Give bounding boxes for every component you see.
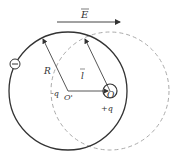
electric-field-arrow: E: [57, 9, 120, 22]
radius-arrow: [43, 39, 68, 91]
electron-icon: [10, 59, 20, 69]
radius-label: R: [43, 66, 51, 76]
field-label: E: [80, 9, 89, 20]
atom-polarization-diagram: E R l -q O' O +q: [0, 0, 177, 164]
negative-charge-label: -q: [51, 89, 59, 98]
center-label: O: [107, 90, 115, 100]
positive-charge-label: +q: [101, 104, 113, 113]
displacement-label: l: [81, 71, 84, 81]
shifted-center-label: O': [64, 93, 73, 102]
